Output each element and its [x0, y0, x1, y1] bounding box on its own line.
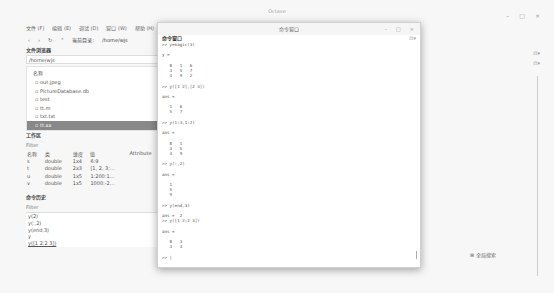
file-item[interactable]: ▫ test [27, 95, 163, 104]
col-dimension[interactable]: 维度 [72, 150, 90, 158]
file-column-header[interactable]: 名称 [27, 69, 163, 78]
dock-icon[interactable]: ⊡▾ [533, 60, 540, 66]
left-panel: 文件浏览器 /home/wjs 名称 ▫ out.jpeg ▫ PictureD… [26, 46, 164, 247]
scrollbar[interactable] [537, 76, 538, 276]
up-folder-icon[interactable]: ⌃ [60, 37, 64, 43]
menu-edit[interactable]: 编辑 (E) [52, 24, 71, 31]
menu-help[interactable]: 帮助 (H) [135, 24, 154, 31]
file-item[interactable]: ▫ PictureDatabase.db [27, 87, 163, 96]
file-item[interactable]: ▫ tt.m [27, 104, 163, 113]
history-filter[interactable]: Filter [26, 202, 164, 212]
history-list: y(2) y(:,2) y(end,3) y y([1 2;2 3]) [26, 212, 164, 247]
workspace-filter[interactable]: Filter [26, 140, 164, 150]
scrollbar[interactable] [416, 251, 417, 259]
file-item[interactable]: ▫ out.jpeg [27, 78, 163, 87]
command-line: >> | [162, 255, 420, 260]
current-dir-input[interactable]: /home/wjs [102, 37, 128, 43]
command-window: 命令窗口 – □ × 命令窗口 ⊡▾ >> y=magic(3) y = 8 1… [157, 22, 421, 268]
refresh-icon[interactable]: ↻ [48, 37, 52, 43]
col-value[interactable]: 值 [89, 150, 128, 158]
table-row[interactable]: vdouble1x51000:-2… [26, 180, 164, 188]
menu-debug[interactable]: 调试 (D) [79, 24, 98, 31]
list-item[interactable]: y(2) [28, 213, 164, 220]
workspace-table: 名称 类 维度 值 Attribute sdouble1x46:9 tdoubl… [26, 150, 164, 188]
toolbar: ‹ › ↻ ⌃ 当前目录: /home/wjs [28, 36, 128, 43]
file-item-selected[interactable]: ▫ tt.xx [27, 121, 163, 130]
table-row[interactable]: udouble1x51:200:1… [26, 172, 164, 180]
main-window-controls: – □ × [506, 12, 540, 19]
col-class[interactable]: 类 [44, 150, 72, 158]
workspace-title: 工作区 [26, 131, 164, 140]
close-icon[interactable]: × [535, 12, 540, 19]
menu-window[interactable]: 窗口 (W) [106, 24, 126, 31]
global-search-button[interactable]: ⊞ 全局搜索 [470, 251, 496, 258]
menu-file[interactable]: 文件 (F) [26, 24, 44, 31]
file-item[interactable]: ▫ txt.txt [27, 112, 163, 121]
list-item[interactable]: y(end,3) [28, 227, 164, 234]
list-item[interactable]: y [28, 233, 164, 240]
dock-icon[interactable]: ⊡▾ [533, 50, 540, 56]
forward-icon[interactable]: › [38, 37, 40, 43]
dock-icon[interactable]: ⊡▾ [409, 35, 416, 42]
table-row[interactable]: sdouble1x46:9 [26, 157, 164, 165]
command-output[interactable]: >> y=magic(3) y = 8 1 6 3 5 7 4 9 2 >> y… [158, 42, 420, 260]
list-item[interactable]: y([1 2;2 3]) [28, 240, 164, 247]
editor-area: ⊡▾ ⊡▾ [420, 46, 540, 266]
maximize-icon[interactable]: □ [519, 12, 525, 19]
command-history-title: 命令历史 [26, 193, 164, 202]
back-icon[interactable]: ‹ [28, 37, 30, 43]
command-window-subtitle: 命令窗口 ⊡▾ [158, 35, 420, 42]
command-window-titlebar[interactable]: 命令窗口 – □ × [158, 23, 420, 35]
workspace-header-row: 名称 类 维度 值 Attribute [26, 150, 164, 158]
menubar: 文件 (F) 编辑 (E) 调试 (D) 窗口 (W) 帮助 (H) 新闻 [26, 24, 172, 31]
command-window-title: 命令窗口 [279, 26, 299, 32]
current-dir-label: 当前目录: [72, 36, 94, 43]
file-list: 名称 ▫ out.jpeg ▫ PictureDatabase.db ▫ tes… [26, 66, 164, 131]
table-row[interactable]: tdouble2x3[1, 2, 3;… [26, 165, 164, 173]
maximize-icon[interactable]: □ [396, 23, 401, 35]
file-browser-path-input[interactable]: /home/wjs [26, 55, 164, 64]
minimize-icon[interactable]: – [385, 23, 388, 35]
close-icon[interactable]: × [410, 23, 414, 35]
file-browser-title: 文件浏览器 [26, 46, 164, 55]
main-window-title: Octave [0, 8, 554, 14]
col-name[interactable]: 名称 [26, 150, 44, 158]
command-window-controls: – □ × [385, 23, 414, 35]
list-item[interactable]: y(:,2) [28, 220, 164, 227]
minimize-icon[interactable]: – [506, 12, 509, 19]
